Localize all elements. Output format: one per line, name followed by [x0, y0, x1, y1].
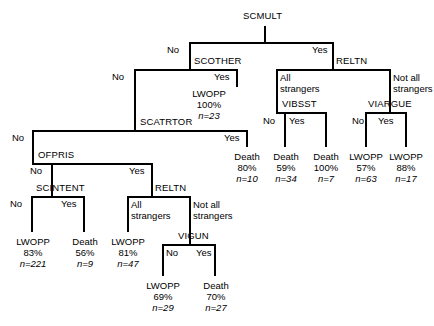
- leaf-node: Death 70% n=27: [203, 280, 228, 313]
- leaf-node: Death 100% n=7: [313, 151, 338, 184]
- leaf-percent: 88%: [389, 162, 423, 173]
- leaf-outcome: LWOPP: [389, 151, 423, 162]
- leaf-count: n=10: [234, 173, 259, 184]
- branch-viargue-yes: Yes: [378, 116, 394, 127]
- node-scother: SCOTHER: [194, 56, 242, 67]
- leaf-count: n=63: [349, 173, 383, 184]
- node-viargue: VIARGUE: [368, 99, 412, 110]
- leaf-outcome: LWOPP: [349, 151, 383, 162]
- branch-vigun-no: No: [166, 248, 178, 259]
- branch-reltn-top-not-all-strangers-line1: Not all: [393, 73, 420, 84]
- branch-vibsst-no: No: [263, 116, 275, 127]
- branch-reltn-bottom-all-strangers-line2: strangers: [131, 211, 171, 222]
- leaf-count: n=34: [273, 173, 298, 184]
- branch-reltn-bottom-not-all-strangers-line2: strangers: [193, 211, 233, 222]
- leaf-percent: 100%: [192, 99, 226, 110]
- node-vigun: VIGUN: [178, 231, 209, 242]
- decision-tree-figure: SCMULT SCOTHER RELTN VIBSST VIARGUE SCAT…: [0, 0, 434, 326]
- node-scmult: SCMULT: [243, 11, 282, 22]
- leaf-outcome: LWOPP: [16, 236, 50, 247]
- leaf-node: LWOPP 100% n=23: [192, 88, 226, 121]
- leaf-count: n=17: [389, 173, 423, 184]
- branch-scother-no: No: [112, 72, 124, 83]
- branch-ofpris-yes: Yes: [129, 166, 145, 177]
- branch-ofpris-no: No: [30, 166, 42, 177]
- leaf-node: Death 59% n=34: [273, 151, 298, 184]
- leaf-count: n=29: [146, 302, 180, 313]
- node-reltn-bottom: RELTN: [155, 183, 186, 194]
- node-vibsst: VIBSST: [282, 99, 317, 110]
- branch-scatrtor-yes: Yes: [224, 133, 240, 144]
- branch-reltn-top-not-all-strangers-line2: strangers: [393, 84, 433, 95]
- branch-scintent-yes: Yes: [61, 199, 77, 210]
- leaf-count: n=27: [203, 302, 228, 313]
- leaf-node: LWOPP 83% n=221: [16, 236, 50, 269]
- branch-reltn-bottom-all-strangers-line1: All: [131, 200, 142, 211]
- leaf-outcome: LWOPP: [146, 280, 180, 291]
- leaf-node: LWOPP 81% n=47: [111, 236, 145, 269]
- leaf-node: Death 80% n=10: [234, 151, 259, 184]
- node-scatrtor: SCATRTOR: [140, 117, 192, 128]
- leaf-outcome: Death: [313, 151, 338, 162]
- leaf-count: n=221: [16, 258, 50, 269]
- leaf-node: Death 56% n=9: [72, 236, 97, 269]
- leaf-percent: 80%: [234, 162, 259, 173]
- leaf-outcome: LWOPP: [192, 88, 226, 99]
- leaf-percent: 57%: [349, 162, 383, 173]
- leaf-percent: 83%: [16, 247, 50, 258]
- leaf-outcome: Death: [203, 280, 228, 291]
- leaf-node: LWOPP 69% n=29: [146, 280, 180, 313]
- branch-reltn-top-all-strangers-line1: All: [280, 73, 291, 84]
- leaf-outcome: Death: [72, 236, 97, 247]
- leaf-percent: 70%: [203, 291, 228, 302]
- branch-scatrtor-no: No: [12, 133, 24, 144]
- branch-reltn-bottom-not-all-strangers-line1: Not all: [193, 200, 220, 211]
- leaf-percent: 100%: [313, 162, 338, 173]
- branch-viargue-no: No: [352, 116, 364, 127]
- branch-vigun-yes: Yes: [196, 248, 212, 259]
- leaf-node: LWOPP 88% n=17: [389, 151, 423, 184]
- leaf-percent: 59%: [273, 162, 298, 173]
- branch-vibsst-yes: Yes: [289, 116, 305, 127]
- node-scintent: SCINTENT: [36, 183, 85, 194]
- leaf-node: LWOPP 57% n=63: [349, 151, 383, 184]
- leaf-count: n=9: [72, 258, 97, 269]
- leaf-count: n=23: [192, 110, 226, 121]
- branch-scother-yes: Yes: [214, 72, 230, 83]
- branch-scmult-yes: Yes: [312, 45, 328, 56]
- leaf-count: n=7: [313, 173, 338, 184]
- branch-scmult-no: No: [167, 45, 179, 56]
- leaf-count: n=47: [111, 258, 145, 269]
- node-reltn-top: RELTN: [336, 56, 367, 67]
- branch-reltn-top-all-strangers-line2: strangers: [280, 84, 320, 95]
- leaf-percent: 69%: [146, 291, 180, 302]
- leaf-outcome: LWOPP: [111, 236, 145, 247]
- node-ofpris: OFPRIS: [38, 150, 74, 161]
- leaf-percent: 56%: [72, 247, 97, 258]
- leaf-outcome: Death: [234, 151, 259, 162]
- leaf-percent: 81%: [111, 247, 145, 258]
- branch-scintent-no: No: [10, 199, 22, 210]
- leaf-outcome: Death: [273, 151, 298, 162]
